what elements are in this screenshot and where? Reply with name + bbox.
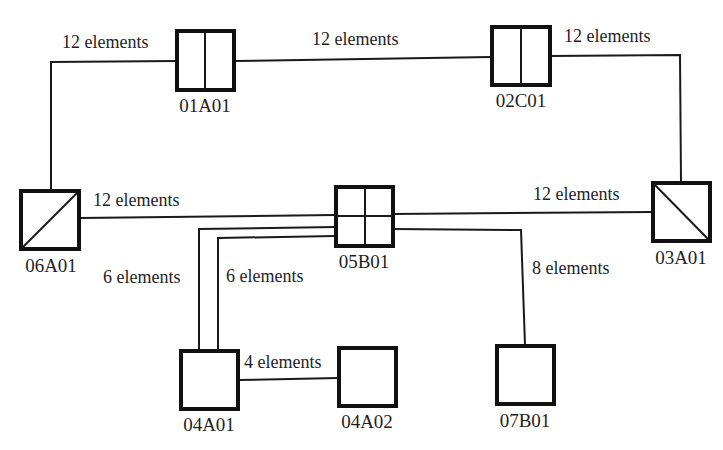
node-label-07B01: 07B01: [500, 410, 551, 431]
link-label-06A01-05B01: 12 elements: [93, 190, 179, 210]
link-06A01-01A01: [51, 61, 176, 190]
node-05B01[interactable]: 05B01: [336, 187, 393, 272]
node-07B01[interactable]: 07B01: [497, 346, 554, 431]
link-label-04A01-04A02: 4 elements: [244, 352, 321, 372]
node-label-05B01: 05B01: [339, 251, 390, 272]
link-02C01-03A01: [550, 55, 681, 182]
link-label-05B01-04A01-inner: 6 elements: [226, 266, 303, 286]
link-05B01-03A01: [393, 212, 652, 214]
node-label-01A01: 01A01: [179, 95, 231, 116]
node-label-06A01: 06A01: [25, 255, 77, 276]
node-label-02C01: 02C01: [496, 90, 547, 111]
link-05B01-07B01: [393, 229, 525, 345]
node-04A02[interactable]: 04A02: [339, 348, 396, 432]
node-01A01[interactable]: 01A01: [177, 31, 234, 116]
node-label-03A01: 03A01: [655, 247, 707, 268]
node-03A01[interactable]: 03A01: [653, 183, 710, 268]
node-02C01[interactable]: 02C01: [492, 27, 550, 111]
link-label-02C01-03A01: 12 elements: [564, 26, 650, 46]
link-04A01-04A02: [238, 378, 338, 380]
link-06A01-05B01: [80, 215, 335, 218]
link-label-05B01-04A01-outer: 6 elements: [103, 267, 180, 287]
network-diagram: 01A01 02C01 06A01 03A01 05B01 04A01 04A0…: [0, 0, 723, 450]
node-label-04A02: 04A02: [341, 411, 393, 432]
node-06A01[interactable]: 06A01: [21, 191, 79, 276]
link-05B01-04A01-inner: [218, 236, 335, 350]
node-04A01[interactable]: 04A01: [181, 351, 238, 435]
link-label-06A01-01A01: 12 elements: [62, 32, 148, 52]
link-label-05B01-03A01: 12 elements: [533, 184, 619, 204]
node-label-04A01: 04A01: [183, 414, 235, 435]
link-label-01A01-02C01: 12 elements: [312, 29, 398, 49]
link-01A01-02C01: [234, 57, 491, 61]
link-label-05B01-07B01: 8 elements: [532, 258, 609, 278]
link-05B01-04A01-outer: [199, 227, 335, 350]
